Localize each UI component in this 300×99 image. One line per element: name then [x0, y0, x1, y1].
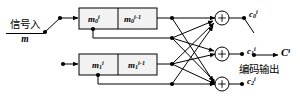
output-sup: i [254, 75, 256, 82]
adder-2-output-label: c2i [247, 76, 256, 86]
register-cell-sup: i-1 [134, 13, 141, 20]
dot-node-d [170, 82, 174, 86]
adder-1-output-label: c1i [247, 46, 256, 56]
input-label-cjk: 信号入 [4, 19, 46, 30]
register-cell-base: m [92, 60, 99, 70]
dot-node-a [170, 16, 174, 20]
wire-c-to-adder1 [172, 54, 215, 64]
input-label-variable: m [4, 35, 46, 45]
output-sup: i [256, 8, 258, 15]
dot-reg1-input [61, 62, 65, 66]
input-switch-arm [45, 18, 60, 32]
register-cell-sup: i [102, 59, 104, 66]
dot-node-c [170, 62, 174, 66]
register-cell-sup: i-1 [138, 59, 145, 66]
register-cell-m1-i: m1i [92, 60, 104, 70]
dot-c1-out [240, 52, 244, 56]
convolutional-encoder-diagram: 信号入 m m0i m0i-1 m1i m1i-1 c0i c1i c2i Ci… [0, 0, 300, 99]
dot-node-b [170, 36, 174, 40]
output-sup: i [254, 45, 256, 52]
dot-switch-contact [58, 16, 62, 20]
dot-tap-reg0 [91, 27, 95, 31]
register-cell-base: m [124, 14, 131, 24]
register-cell-m1-i-1: m1i-1 [128, 60, 145, 70]
final-output-sup: i [288, 47, 290, 55]
dot-c2-out [240, 82, 244, 86]
output-switch-arm [244, 18, 254, 33]
final-output-label: Ci [281, 47, 290, 58]
register-cell-base: m [88, 14, 95, 24]
dot-tap-reg1 [96, 73, 100, 77]
register-cell-m0-i: m0i [88, 14, 100, 24]
dot-c0-out [242, 16, 246, 20]
register-cell-m0-i-1: m0i-1 [124, 14, 141, 24]
wire-d-to-adder0 [172, 26, 213, 84]
adder-0-output-label: c0i [249, 9, 258, 19]
final-output-label-cjk: 编码输出 [239, 64, 279, 75]
register-cell-sup: i [98, 13, 100, 20]
register-cell-base: m [128, 60, 135, 70]
